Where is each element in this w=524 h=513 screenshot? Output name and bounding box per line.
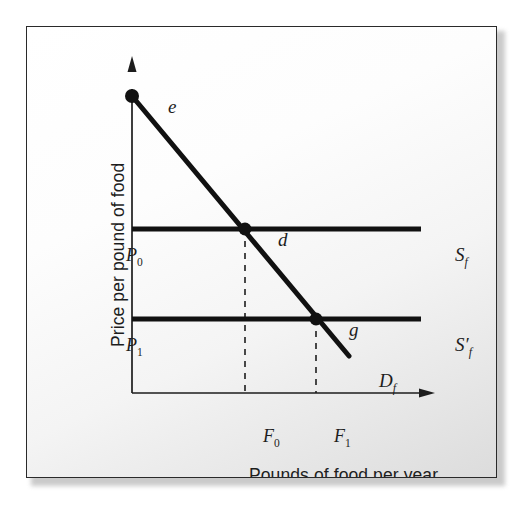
y-tick-label-P0: P0 <box>126 246 143 268</box>
curve-label-Sf: Sf <box>455 245 468 268</box>
curve-label-Sf-prime-letter: S′ <box>455 334 469 355</box>
x-axis-arrowhead <box>419 389 435 398</box>
curve-label-Df-letter: D <box>379 370 393 391</box>
point-label-d: d <box>278 230 288 249</box>
curve-label-Sf-prime: S′f <box>455 335 472 358</box>
figure-plate: Price per pound of food Pounds of food p… <box>26 26 497 478</box>
y-tick-P0-letter: P <box>126 245 137 265</box>
point-label-e: e <box>168 97 176 116</box>
point-marker-d <box>239 223 252 236</box>
supply-demand-plot <box>27 27 496 477</box>
curve-label-Sf-subscript: f <box>465 255 468 269</box>
curve-label-Sf-prime-subscript: f <box>469 345 472 359</box>
x-axis-title: Pounds of food per year <box>249 467 438 478</box>
point-marker-g <box>310 313 323 326</box>
y-tick-P1-letter: P <box>126 335 137 355</box>
x-tick-label-F0: F0 <box>263 427 280 449</box>
x-tick-F1-subscript: 1 <box>345 437 351 449</box>
point-label-g: g <box>349 320 359 339</box>
point-marker-e <box>125 89 139 103</box>
x-tick-F1-letter: F <box>334 426 345 446</box>
y-tick-P1-subscript: 1 <box>137 346 143 358</box>
curve-label-Df: Df <box>379 371 396 394</box>
y-axis-arrowhead <box>128 56 137 72</box>
x-tick-F0-subscript: 0 <box>274 437 280 449</box>
y-axis-title: Price per pound of food <box>110 163 128 347</box>
curve-label-Sf-letter: S <box>455 244 465 265</box>
curve-label-Df-subscript: f <box>393 381 396 395</box>
y-tick-P0-subscript: 0 <box>137 256 143 268</box>
y-tick-label-P1: P1 <box>126 336 143 358</box>
figure-root: Price per pound of food Pounds of food p… <box>0 0 524 513</box>
dropline-group <box>245 229 316 393</box>
x-tick-F0-letter: F <box>263 426 274 446</box>
x-tick-label-F1: F1 <box>334 427 351 449</box>
